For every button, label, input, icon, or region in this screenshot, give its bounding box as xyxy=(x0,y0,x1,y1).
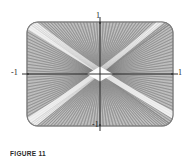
x-max-tick-label: 1 xyxy=(178,69,182,77)
surface-mesh-plot xyxy=(0,0,192,140)
y-min-tick-label: -1 xyxy=(92,121,99,129)
figure-root: 1 -1 -1 1 FIGURE 11 xyxy=(0,0,192,159)
plot-area: 1 -1 -1 1 xyxy=(0,0,192,140)
figure-caption: FIGURE 11 xyxy=(10,150,46,159)
y-max-tick-label: 1 xyxy=(96,12,100,20)
x-min-tick-label: -1 xyxy=(11,69,18,77)
